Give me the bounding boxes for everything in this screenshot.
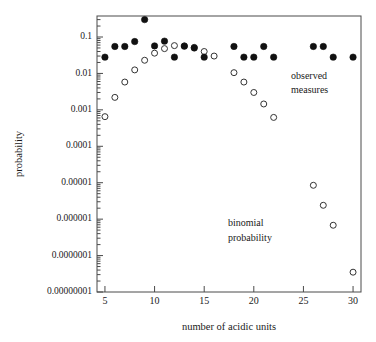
data-point-binomial bbox=[201, 49, 207, 55]
chart-figure: 0.10.010.0010.00010.000010.0000010.00000… bbox=[0, 0, 376, 342]
series-annotation-label: measures bbox=[291, 84, 328, 95]
data-point-binomial bbox=[310, 182, 316, 188]
y-axis-tickmarks bbox=[97, 20, 103, 292]
y-tick-label: 0.1 bbox=[80, 31, 92, 41]
x-tick-label: 20 bbox=[249, 295, 259, 306]
y-tick-label: 0.00001 bbox=[61, 177, 92, 187]
data-point-binomial bbox=[231, 70, 237, 76]
data-point-observed bbox=[112, 43, 118, 49]
data-point-observed bbox=[191, 45, 197, 51]
data-point-observed bbox=[241, 54, 247, 60]
data-point-observed bbox=[310, 43, 316, 49]
series-annotation-label: observed bbox=[291, 70, 327, 81]
y-tick-label: 0.0000001 bbox=[52, 250, 93, 260]
data-point-observed bbox=[330, 54, 336, 60]
data-point-observed bbox=[171, 54, 177, 60]
x-tick-label: 15 bbox=[199, 295, 209, 306]
data-point-observed bbox=[201, 54, 207, 60]
data-point-observed bbox=[350, 54, 356, 60]
plot-area-border bbox=[97, 16, 361, 292]
data-point-observed bbox=[320, 43, 326, 49]
data-point-binomial bbox=[330, 222, 336, 228]
x-tick-label: 5 bbox=[102, 295, 107, 306]
data-point-binomial bbox=[171, 43, 177, 49]
data-point-binomial bbox=[152, 50, 158, 56]
data-point-binomial bbox=[211, 53, 217, 59]
data-point-observed bbox=[161, 38, 167, 44]
data-point-observed bbox=[261, 43, 267, 49]
data-point-observed bbox=[102, 54, 108, 60]
y-axis-tick-labels: 0.10.010.0010.00010.000010.0000010.00000… bbox=[47, 31, 92, 296]
y-axis-title: probability bbox=[13, 130, 24, 177]
data-point-binomial bbox=[261, 101, 267, 107]
data-point-observed bbox=[251, 54, 257, 60]
x-axis-title: number of acidic units bbox=[182, 321, 276, 332]
series-annotation-label: probability bbox=[228, 232, 272, 243]
y-tick-label: 0.000001 bbox=[56, 213, 92, 223]
data-point-binomial bbox=[161, 46, 167, 52]
data-point-observed bbox=[181, 43, 187, 49]
data-point-binomial bbox=[112, 94, 118, 100]
y-tick-label: 0.0001 bbox=[66, 140, 92, 150]
data-point-binomial bbox=[271, 114, 277, 120]
y-tick-label: 0.001 bbox=[71, 104, 93, 114]
x-tick-label: 30 bbox=[348, 295, 358, 306]
x-tick-label: 10 bbox=[150, 295, 160, 306]
data-point-observed bbox=[122, 43, 128, 49]
scatter-plot-svg: 0.10.010.0010.00010.000010.0000010.00000… bbox=[0, 0, 376, 342]
data-point-observed bbox=[270, 54, 276, 60]
data-point-binomial bbox=[241, 79, 247, 85]
x-tick-label: 25 bbox=[298, 295, 308, 306]
data-point-binomial bbox=[102, 114, 108, 120]
data-point-binomial bbox=[251, 89, 257, 95]
data-point-binomial bbox=[350, 269, 356, 275]
x-axis-tick-labels: 51015202530 bbox=[102, 295, 358, 306]
data-point-observed bbox=[151, 43, 157, 49]
x-axis-tickmarks bbox=[105, 286, 353, 292]
data-point-observed bbox=[231, 43, 237, 49]
y-tick-label: 0.00000001 bbox=[47, 286, 92, 296]
data-point-observed bbox=[141, 16, 147, 22]
inline-series-labels: observedmeasuresbinomialprobability bbox=[228, 70, 328, 243]
data-point-binomial bbox=[122, 79, 128, 85]
data-point-binomial bbox=[320, 202, 326, 208]
series-observed-measures bbox=[102, 16, 357, 60]
data-point-binomial bbox=[132, 67, 138, 73]
series-annotation-label: binomial bbox=[228, 217, 264, 228]
data-point-binomial bbox=[142, 57, 148, 63]
data-point-observed bbox=[132, 38, 138, 44]
plot-frame bbox=[97, 16, 361, 292]
y-tick-label: 0.01 bbox=[75, 68, 92, 78]
